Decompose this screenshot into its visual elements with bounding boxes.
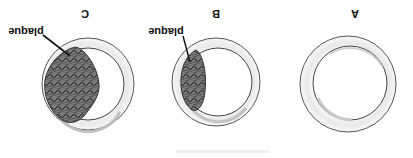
panel-b: plaque B [148, 8, 260, 126]
panel-label-a: A [351, 8, 359, 20]
panel-c: plaque C [8, 8, 134, 132]
artery-plaque-diagram: plaque C plaque B [0, 0, 413, 158]
plaque-label-c: plaque [8, 26, 43, 38]
plaque-label-b: plaque [148, 26, 183, 38]
panel-label-c: C [81, 8, 89, 20]
panel-a: A [300, 8, 396, 132]
panel-label-b: B [212, 8, 220, 20]
artery-wall-a [300, 36, 396, 132]
faint-caption [175, 150, 270, 153]
